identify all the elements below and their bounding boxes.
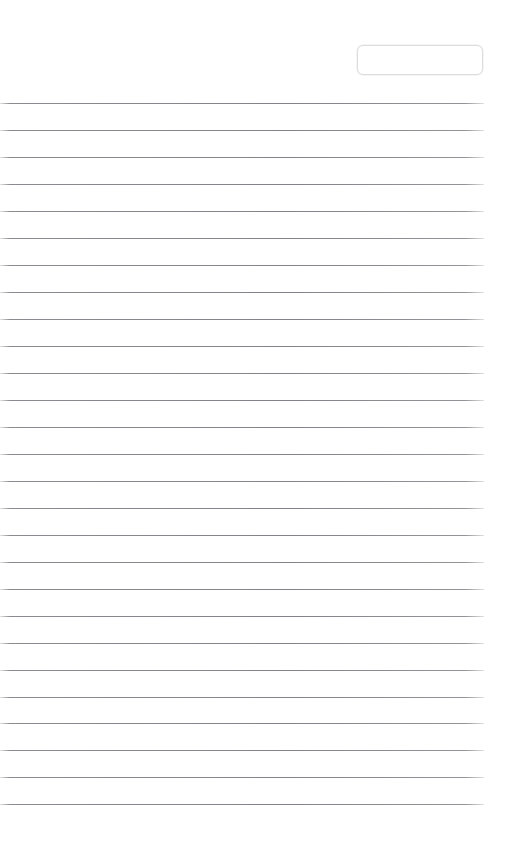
rule-row[interactable] xyxy=(0,724,507,751)
rule-row[interactable] xyxy=(0,536,507,563)
rule-row[interactable] xyxy=(0,239,507,266)
rule-row[interactable] xyxy=(0,697,507,724)
rule-row[interactable] xyxy=(0,158,507,185)
ruled-lines-area xyxy=(0,0,507,849)
rule-row[interactable] xyxy=(0,617,507,644)
rule-row[interactable] xyxy=(0,266,507,293)
rule-row[interactable] xyxy=(0,509,507,536)
page-canvas xyxy=(0,0,507,849)
rule-row[interactable] xyxy=(0,751,507,778)
rule-row[interactable] xyxy=(0,644,507,671)
rule-row[interactable] xyxy=(0,563,507,590)
rule-row[interactable] xyxy=(0,374,507,401)
rule-row[interactable] xyxy=(0,671,507,698)
rule-row[interactable] xyxy=(0,293,507,320)
rule-row[interactable] xyxy=(0,104,507,131)
footer-area xyxy=(0,805,507,849)
rule-row[interactable] xyxy=(0,455,507,482)
rule-row[interactable] xyxy=(0,347,507,374)
rule-row[interactable] xyxy=(0,212,507,239)
rule-row[interactable] xyxy=(0,77,507,104)
rule-row[interactable] xyxy=(0,131,507,158)
rule-row[interactable] xyxy=(0,428,507,455)
rule-row[interactable] xyxy=(0,320,507,347)
rule-row[interactable] xyxy=(0,482,507,509)
rule-row[interactable] xyxy=(0,778,507,805)
rule-row[interactable] xyxy=(0,401,507,428)
rule-row[interactable] xyxy=(0,590,507,617)
rule-row[interactable] xyxy=(0,185,507,212)
